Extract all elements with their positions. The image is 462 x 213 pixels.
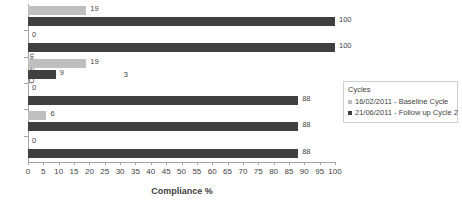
x-tick-mark (228, 162, 229, 165)
bar-row: 9 (28, 70, 335, 79)
legend-title: Cycles (348, 85, 453, 94)
bar-group: 688 (28, 109, 335, 135)
x-tick-mark (320, 162, 321, 165)
x-tick-mark (335, 162, 336, 165)
x-tick-label: 100 (323, 167, 347, 176)
bar-row: 19 (28, 6, 335, 15)
x-tick-mark (243, 162, 244, 165)
legend-item-label: 16/02/2011 - Baseline Cycle (355, 96, 448, 107)
x-tick-mark (135, 162, 136, 165)
plot-area: 191000100199088688088 (28, 4, 335, 162)
x-tick-mark (43, 162, 44, 165)
square-dark-icon (348, 111, 352, 115)
bar-row: 19 (28, 59, 335, 68)
bar-row: 0 (28, 138, 335, 147)
bar-baseline[interactable] (28, 6, 86, 15)
x-tick-mark (304, 162, 305, 165)
bar-group: 19100 (28, 4, 335, 30)
bar-value-label: 88 (302, 94, 310, 103)
bar-followup[interactable] (28, 70, 56, 79)
bar-followup[interactable] (28, 149, 298, 158)
bar-group: 088 (28, 136, 335, 162)
bar-row: 100 (28, 43, 335, 52)
bar-followup[interactable] (28, 43, 335, 52)
square-light-icon (348, 100, 352, 104)
bar-row: 0 (28, 32, 335, 41)
x-tick-mark (274, 162, 275, 165)
bar-value-label: 100 (339, 15, 352, 24)
bar-row: 88 (28, 122, 335, 131)
bar-followup[interactable] (28, 122, 298, 131)
x-tick-mark (89, 162, 90, 165)
bar-value-label: 6 (50, 109, 54, 118)
bar-row: 88 (28, 96, 335, 105)
bar-value-label: 100 (339, 41, 352, 50)
legend-item-label: 21/06/2011 - Follow up Cycle 2 (355, 107, 458, 118)
bar-value-label: 88 (302, 147, 310, 156)
x-tick-mark (120, 162, 121, 165)
bar-value-label: 88 (302, 120, 310, 129)
bar-value-label: 0 (32, 136, 36, 145)
legend-item-baseline[interactable]: 16/02/2011 - Baseline Cycle (348, 96, 453, 107)
bar-row: 88 (28, 149, 335, 158)
bar-value-label: 9 (60, 68, 64, 77)
x-tick-mark (151, 162, 152, 165)
x-axis-title: Compliance % (28, 186, 336, 196)
x-tick-mark (212, 162, 213, 165)
bar-value-label: 0 (32, 83, 36, 92)
bar-group: 0100 (28, 30, 335, 56)
x-tick-mark (197, 162, 198, 165)
legend-item-followup[interactable]: 21/06/2011 - Follow up Cycle 2 (348, 107, 453, 118)
bar-followup[interactable] (28, 17, 335, 26)
bar-row: 100 (28, 17, 335, 26)
bar-value-label: 19 (90, 57, 98, 66)
x-tick-mark (28, 162, 29, 165)
bar-row: 6 (28, 111, 335, 120)
bar-value-label: 0 (32, 30, 36, 39)
bar-row: 0 (28, 85, 335, 94)
bar-value-label: 19 (90, 4, 98, 13)
bar-followup[interactable] (28, 96, 298, 105)
x-tick-mark (258, 162, 259, 165)
x-tick-mark (59, 162, 60, 165)
legend: Cycles 16/02/2011 - Baseline Cycle 21/06… (343, 81, 458, 123)
bar-group: 088 (28, 83, 335, 109)
x-tick-mark (289, 162, 290, 165)
bar-group: 199 (28, 57, 335, 83)
bar-baseline[interactable] (28, 111, 46, 120)
bar-baseline[interactable] (28, 59, 86, 68)
x-tick-mark (166, 162, 167, 165)
x-tick-mark (105, 162, 106, 165)
x-tick-mark (74, 162, 75, 165)
compliance-bar-chart: Criterion 1 2 3 4 5 6 191000100199088688… (0, 0, 462, 213)
x-tick-mark (182, 162, 183, 165)
